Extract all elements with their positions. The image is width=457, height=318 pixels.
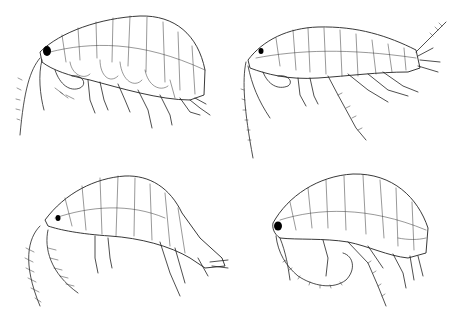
amphipod-illustration-bottom-right	[228, 158, 457, 318]
amphipod-illustration-bottom-left	[0, 158, 230, 318]
amphipod-illustration-top-left	[0, 0, 230, 160]
amphipod-illustration-top-right	[228, 0, 457, 160]
